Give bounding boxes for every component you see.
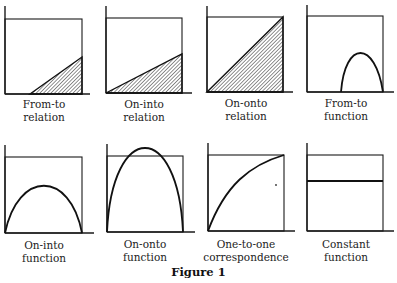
label-line1: One-to-one <box>196 238 296 251</box>
label-on-into-function: On-into function <box>0 239 94 265</box>
label-from-to-function: From-to function <box>296 97 396 123</box>
panel-on-onto-relation <box>207 6 293 92</box>
label-line1: Constant <box>296 238 396 251</box>
panel-one-to-one-correspondence <box>208 143 295 231</box>
panel-from-to-function <box>307 5 394 92</box>
panel-on-into-function <box>5 145 94 233</box>
function-curve <box>107 148 183 232</box>
label-on-into-relation: On-into relation <box>94 98 194 124</box>
stray-dot <box>275 184 277 186</box>
panel-constant-function <box>307 143 394 231</box>
shaded-region <box>207 17 283 92</box>
panel-from-to-relation <box>5 6 90 94</box>
label-line2: relation <box>0 111 94 124</box>
label-line2: function <box>0 252 94 265</box>
label-line1: From-to <box>0 98 94 111</box>
label-from-to-relation: From-to relation <box>0 98 94 124</box>
shaded-region <box>30 57 82 94</box>
function-curve <box>341 53 383 92</box>
label-line1: On-onto <box>95 238 195 251</box>
label-line2: relation <box>196 110 296 123</box>
shaded-region <box>106 54 182 93</box>
label-line2: relation <box>94 111 194 124</box>
function-curve <box>5 186 82 233</box>
label-line2: correspondence <box>196 251 296 264</box>
label-on-onto-function: On-onto function <box>95 238 195 264</box>
panel-on-onto-function <box>107 144 195 232</box>
panel-on-into-relation <box>106 6 192 93</box>
label-line1: On-into <box>94 98 194 111</box>
figure-caption: Figure 1 <box>0 265 397 279</box>
label-on-onto-relation: On-onto relation <box>196 97 296 123</box>
label-line1: On-into <box>0 239 94 252</box>
label-line1: From-to <box>296 97 396 110</box>
function-curve <box>208 155 284 231</box>
label-line2: function <box>296 251 396 264</box>
label-constant-function: Constant function <box>296 238 396 264</box>
label-line2: function <box>95 251 195 264</box>
label-one-to-one-correspondence: One-to-one correspondence <box>196 238 296 264</box>
label-line1: On-onto <box>196 97 296 110</box>
label-line2: function <box>296 110 396 123</box>
